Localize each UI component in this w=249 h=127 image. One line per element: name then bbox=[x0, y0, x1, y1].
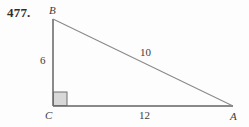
vertex-label-c: C bbox=[45, 110, 52, 121]
measure-label-hypotenuse: 10 bbox=[140, 47, 151, 58]
vertex-label-a: A bbox=[230, 111, 237, 122]
vertex-label-b: B bbox=[49, 5, 56, 16]
measure-label-vertical-leg: 6 bbox=[40, 55, 46, 66]
problem-number: 477. bbox=[7, 6, 31, 19]
measure-label-horizontal-leg: 12 bbox=[139, 110, 150, 121]
geometry-figure: 477. B C A 6 10 12 bbox=[0, 0, 249, 127]
triangle-drawing bbox=[0, 0, 249, 127]
right-angle-marker bbox=[54, 92, 68, 106]
segment-ba bbox=[53, 19, 233, 106]
